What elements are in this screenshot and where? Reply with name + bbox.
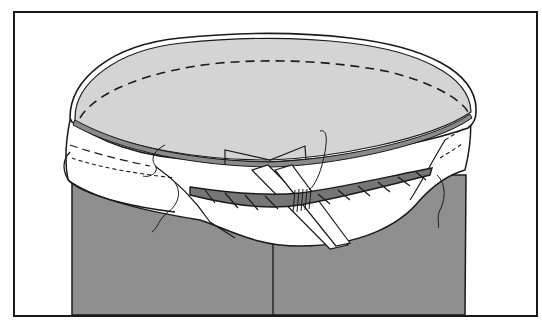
pants-waistband-illustration xyxy=(0,0,542,327)
illustration xyxy=(0,0,542,327)
